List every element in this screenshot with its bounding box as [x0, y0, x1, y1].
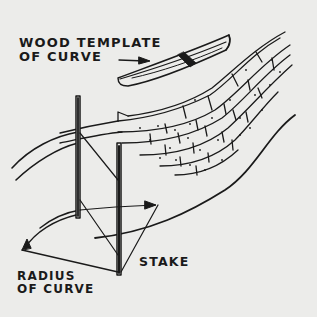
template-label-line2: OF CURVE — [19, 50, 162, 64]
string-arc-upper — [12, 132, 78, 168]
ground-curve — [95, 115, 295, 238]
radius-label-line2: OF CURVE — [17, 283, 94, 296]
template-label: WOOD TEMPLATE OF CURVE — [19, 36, 162, 63]
radius-arc-arrow — [22, 215, 118, 272]
stake-left — [76, 96, 80, 218]
radius-label: RADIUS OF CURVE — [17, 270, 94, 295]
radius-label-line1: RADIUS — [17, 270, 94, 283]
string-arc-mid — [40, 210, 80, 228]
stake-label: STAKE — [139, 255, 189, 268]
string-arc-lower — [16, 143, 78, 180]
template-label-line1: WOOD TEMPLATE — [19, 36, 162, 50]
string-arrow-icon — [145, 201, 156, 209]
